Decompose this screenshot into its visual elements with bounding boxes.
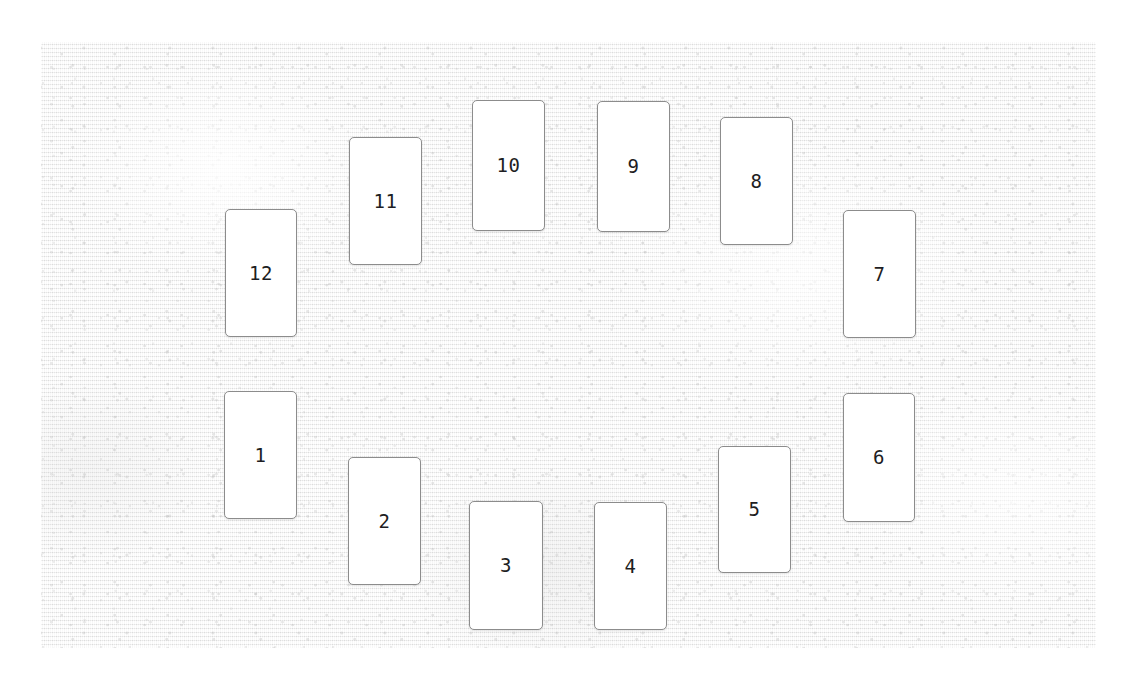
card-10[interactable]: 10 bbox=[472, 100, 545, 231]
card-label: 8 bbox=[751, 172, 763, 191]
card-label: 2 bbox=[379, 512, 391, 531]
card-3[interactable]: 3 bbox=[469, 501, 543, 630]
card-label: 4 bbox=[625, 557, 637, 576]
card-label: 11 bbox=[374, 192, 398, 211]
card-label: 12 bbox=[249, 264, 273, 283]
card-2[interactable]: 2 bbox=[348, 457, 421, 585]
surface-shading bbox=[41, 42, 1096, 648]
card-4[interactable]: 4 bbox=[594, 502, 667, 630]
card-9[interactable]: 9 bbox=[597, 101, 670, 232]
card-7[interactable]: 7 bbox=[843, 210, 916, 338]
card-label: 5 bbox=[749, 500, 761, 519]
card-layout-scene: 121110987654321 bbox=[0, 0, 1137, 688]
card-label: 7 bbox=[874, 265, 886, 284]
card-label: 1 bbox=[255, 446, 267, 465]
card-5[interactable]: 5 bbox=[718, 446, 791, 573]
card-12[interactable]: 12 bbox=[225, 209, 297, 337]
card-label: 6 bbox=[873, 448, 885, 467]
textured-table-surface bbox=[41, 42, 1096, 648]
card-label: 9 bbox=[628, 157, 640, 176]
card-1[interactable]: 1 bbox=[224, 391, 297, 519]
card-label: 10 bbox=[497, 156, 521, 175]
card-11[interactable]: 11 bbox=[349, 137, 422, 265]
card-8[interactable]: 8 bbox=[720, 117, 793, 245]
card-6[interactable]: 6 bbox=[843, 393, 915, 522]
card-label: 3 bbox=[500, 556, 512, 575]
